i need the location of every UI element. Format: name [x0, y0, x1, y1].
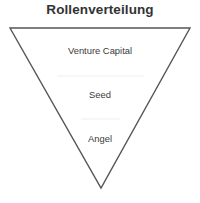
pyramid-tier-labels: Venture Capital Seed Angel: [0, 0, 200, 203]
tier-label-venture-capital: Venture Capital: [0, 45, 200, 56]
pyramid-diagram: Rollenverteilung Venture Capital Seed An…: [0, 0, 200, 203]
tier-label-angel: Angel: [0, 133, 200, 144]
tier-label-seed: Seed: [0, 89, 200, 100]
